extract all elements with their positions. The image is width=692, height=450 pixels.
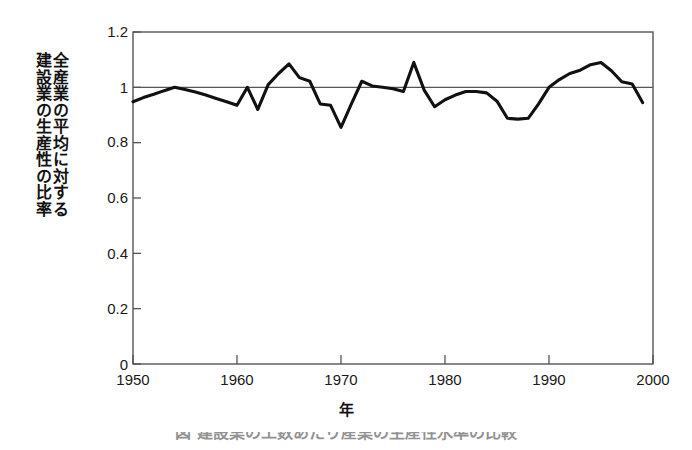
plot-frame <box>133 32 653 364</box>
y-axis-ticks <box>133 32 141 364</box>
data-series-line <box>133 62 643 127</box>
plot-area <box>0 0 692 450</box>
x-axis-title: 年 <box>0 398 692 419</box>
chart-figure: 全産業の平均に対する 建設業の生産性の比率 0 0.2 0.4 0.6 0.8 … <box>0 0 692 450</box>
figure-caption-cropped: 図 建設業の工数あたり産業の生産性水準の比較 <box>0 432 692 450</box>
figure-caption-text: 図 建設業の工数あたり産業の生産性水準の比較 <box>0 432 692 443</box>
x-axis-ticks <box>133 355 653 364</box>
